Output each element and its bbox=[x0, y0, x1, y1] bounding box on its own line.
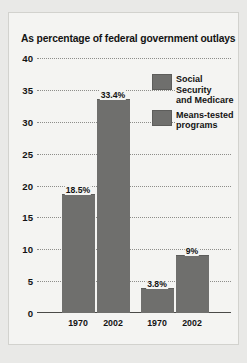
y-tick-label-0: 0 bbox=[28, 308, 33, 319]
bar-mt-2002 bbox=[176, 255, 209, 313]
legend-label-line-2: programs bbox=[176, 120, 234, 131]
bar-label-mt-2002: 9% bbox=[185, 246, 199, 256]
y-tick-label-25: 25 bbox=[22, 148, 33, 159]
x-tick-label-ss-2002: 2002 bbox=[103, 318, 123, 328]
legend-label-line-2: and Medicare bbox=[176, 95, 236, 106]
gridline-40 bbox=[37, 58, 231, 59]
legend-item-social-security-and-medicare: Social Security and Medicare bbox=[152, 74, 236, 106]
y-tick-label-5: 5 bbox=[28, 276, 33, 287]
chart-title: As percentage of federal government outl… bbox=[21, 33, 231, 44]
y-tick-label-20: 20 bbox=[22, 180, 33, 191]
chart-legend: Social Security and Medicare Means-teste… bbox=[152, 74, 236, 135]
y-tick-label-10: 10 bbox=[22, 244, 33, 255]
bar-label-mt-1970: 3.8% bbox=[146, 279, 168, 289]
bar-mt-1970 bbox=[141, 288, 174, 313]
legend-swatch-social-security-and-medicare bbox=[152, 74, 172, 90]
legend-swatch-means-tested-programs bbox=[152, 110, 172, 126]
bar-ss-1970 bbox=[62, 194, 95, 313]
gridline-25 bbox=[37, 154, 231, 155]
y-tick-label-30: 30 bbox=[22, 116, 33, 127]
legend-label-line-1: Social Security bbox=[176, 74, 236, 95]
y-tick-label-15: 15 bbox=[22, 212, 33, 223]
y-tick-label-35: 35 bbox=[22, 84, 33, 95]
bar-label-ss-2002: 33.4% bbox=[100, 90, 126, 100]
legend-label-means-tested-programs: Means-tested programs bbox=[176, 110, 234, 131]
legend-item-means-tested-programs: Means-tested programs bbox=[152, 110, 236, 131]
chart-figure: As percentage of federal government outl… bbox=[8, 12, 239, 345]
y-tick-label-40: 40 bbox=[22, 53, 33, 64]
x-tick-label-ss-1970: 1970 bbox=[68, 318, 88, 328]
x-tick-label-mt-1970: 1970 bbox=[147, 318, 167, 328]
bar-label-ss-1970: 18.5% bbox=[65, 185, 91, 195]
legend-label-line-1: Means-tested bbox=[176, 110, 234, 121]
bar-ss-2002 bbox=[97, 99, 130, 313]
x-tick-label-mt-2002: 2002 bbox=[182, 318, 202, 328]
legend-label-social-security-and-medicare: Social Security and Medicare bbox=[176, 74, 236, 106]
